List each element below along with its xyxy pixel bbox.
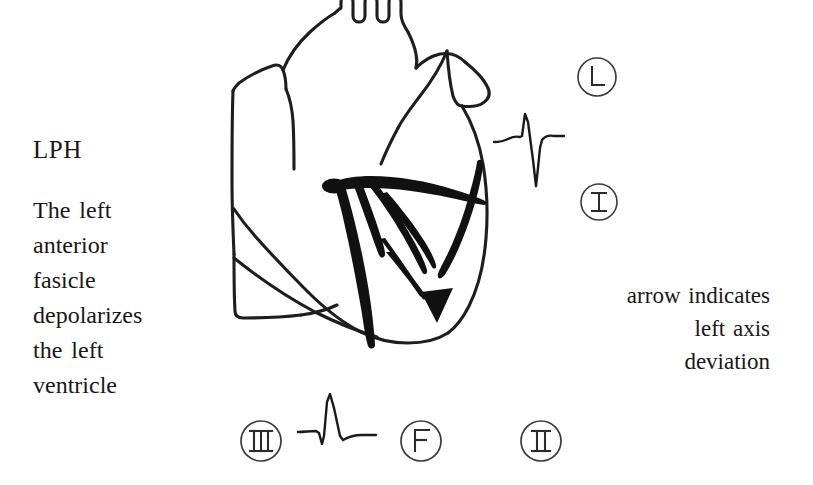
heart-illustration bbox=[215, 0, 525, 396]
lead-glyph-ii bbox=[532, 431, 550, 451]
lead-circle-avl bbox=[578, 58, 616, 96]
diagram-page: LPH The left anterior fasicle depolarize… bbox=[0, 0, 813, 485]
lead-label-ii bbox=[518, 418, 560, 460]
page-title: LPH bbox=[33, 137, 82, 162]
lead-label-avl-svg bbox=[576, 56, 618, 98]
lead-circle-ii bbox=[521, 421, 561, 461]
svc-inner-path bbox=[286, 89, 294, 169]
ecg-trace-lower bbox=[296, 392, 382, 462]
purkinje-outer-arc-path bbox=[438, 160, 483, 279]
lead-glyph-i bbox=[592, 193, 606, 211]
lead-label-iii-svg bbox=[238, 418, 284, 464]
pulmonary-artery-branch-path bbox=[381, 128, 398, 164]
ivc-notch-path bbox=[234, 254, 301, 318]
ecg-lower-waveform-path bbox=[298, 394, 376, 444]
ecg-trace-upper bbox=[492, 108, 572, 192]
right-atrium-left-edge bbox=[232, 91, 234, 254]
lead-glyph-avf bbox=[415, 430, 429, 451]
bundle-of-his-trunk-path bbox=[328, 176, 486, 205]
right-description-text: arrow indicates left axis deviation bbox=[548, 279, 770, 378]
left-description-text: The left anterior fasicle depolarizes th… bbox=[33, 193, 142, 403]
svc-border-path bbox=[233, 65, 286, 91]
left-atrial-appendage-edge bbox=[462, 62, 489, 107]
lead-label-i bbox=[578, 181, 620, 223]
ecg-trace-upper-svg bbox=[492, 108, 572, 192]
lead-label-avf bbox=[398, 418, 440, 460]
lead-label-iii bbox=[238, 418, 280, 460]
lead-glyph-avl bbox=[592, 67, 604, 85]
aortic-arch-branches-path bbox=[335, 0, 408, 32]
lead-glyph-iii bbox=[250, 431, 272, 451]
ecg-upper-waveform-path bbox=[494, 114, 564, 186]
ecg-trace-lower-svg bbox=[296, 392, 382, 462]
lead-label-ii-svg bbox=[518, 418, 564, 464]
lead-label-i-svg bbox=[578, 181, 620, 223]
anterior-fascicle-branch-2-path bbox=[381, 192, 436, 268]
lead-label-avf-svg bbox=[398, 418, 444, 464]
ascending-aorta-left-path bbox=[283, 13, 335, 70]
left-axis-deviation-arrowhead-path bbox=[421, 288, 453, 323]
lead-label-avl bbox=[576, 56, 618, 98]
descending-aorta-path bbox=[408, 32, 417, 68]
heart-drawing-svg bbox=[215, 0, 525, 396]
